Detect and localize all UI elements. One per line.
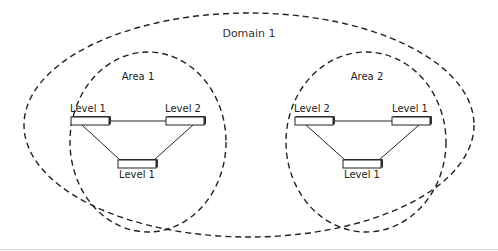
area-2: Area 2Level 2Level 1Level 1 — [286, 52, 446, 232]
router-node: Level 1 — [70, 103, 111, 125]
area-label: Area 1 — [122, 71, 155, 82]
router-node: Level 2 — [165, 103, 206, 125]
area-1: Area 1Level 1Level 2Level 1 — [70, 52, 226, 232]
router-node: Level 1 — [343, 159, 383, 180]
bottom-divider — [0, 249, 498, 250]
link-line — [306, 125, 345, 160]
link-line — [154, 125, 193, 160]
router-box-icon — [166, 117, 204, 125]
area-label: Area 2 — [351, 71, 384, 82]
router-node: Level 1 — [392, 103, 432, 125]
router-node: Level 1 — [118, 159, 158, 180]
router-box-icon — [392, 117, 430, 125]
network-diagram: Domain 1 Area 1Level 1Level 2Level 1Area… — [0, 0, 498, 251]
router-label: Level 2 — [165, 103, 201, 114]
router-label: Level 1 — [344, 169, 380, 180]
link-line — [379, 125, 419, 160]
router-label: Level 1 — [119, 169, 155, 180]
router-box-icon — [71, 117, 109, 125]
router-label: Level 2 — [294, 103, 330, 114]
link-line — [82, 125, 120, 160]
domain-label: Domain 1 — [222, 27, 275, 40]
router-label: Level 1 — [392, 103, 428, 114]
router-label: Level 1 — [70, 103, 106, 114]
router-box-icon — [118, 160, 156, 168]
router-box-icon — [295, 117, 333, 125]
router-node: Level 2 — [294, 103, 335, 125]
router-box-icon — [343, 160, 381, 168]
